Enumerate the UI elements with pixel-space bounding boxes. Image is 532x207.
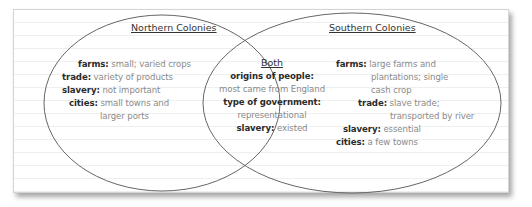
value: small towns and [100, 98, 169, 108]
label: slavery: [62, 85, 100, 95]
label: trade: [62, 72, 91, 82]
southern-farms: farms: large farms and [336, 58, 436, 71]
southern-title: Southern Colonies [329, 22, 416, 33]
southern-farms-cont-2: cash crop [371, 84, 412, 97]
value: variety of products [94, 72, 173, 82]
both-slavery: slavery: existed [212, 122, 332, 135]
southern-trade-cont: transported by river [390, 110, 474, 123]
label: farms: [78, 59, 109, 69]
value: essential [383, 124, 421, 134]
both-title: Both [230, 57, 314, 68]
label: farms: [336, 59, 367, 69]
value: existed [277, 123, 308, 133]
southern-cities: cities: a few towns [336, 136, 418, 149]
value: not important [102, 85, 160, 95]
value: slave trade; [390, 98, 440, 108]
northern-cities-cont: larger ports [100, 110, 149, 123]
value: small; varied crops [111, 59, 191, 69]
both-origins-value: most came from England [208, 83, 336, 96]
label: trade: [358, 98, 387, 108]
label: cities: [336, 137, 365, 147]
value: a few towns [367, 137, 418, 147]
value: large farms and [369, 59, 435, 69]
southern-slavery: slavery: essential [343, 123, 421, 136]
northern-slavery: slavery: not important [62, 84, 160, 97]
northern-cities: cities: small towns and [69, 97, 169, 110]
label: slavery: [237, 123, 275, 133]
southern-trade: trade: slave trade; [358, 97, 439, 110]
northern-title: Northern Colonies [131, 22, 217, 33]
label: cities: [69, 98, 98, 108]
both-origins-label: origins of people: [212, 70, 332, 83]
label: slavery: [343, 124, 381, 134]
both-government-value: representational [212, 109, 332, 122]
northern-farms: farms: small; varied crops [78, 58, 191, 71]
southern-farms-cont-1: plantations; single [371, 71, 448, 84]
northern-trade: trade: variety of products [62, 71, 173, 84]
both-government-label: type of government: [212, 96, 332, 109]
